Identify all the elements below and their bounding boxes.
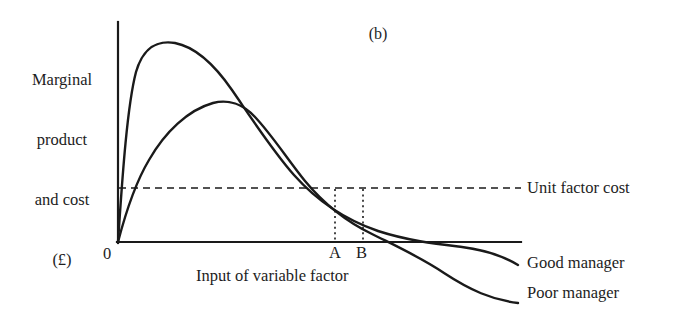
panel-label: (b) — [352, 26, 404, 42]
y-axis-label-line-2: product — [14, 130, 110, 150]
unit-factor-cost-label: Unit factor cost — [527, 180, 630, 197]
origin-label: 0 — [103, 246, 111, 263]
y-axis-label-line-3: and cost — [14, 190, 110, 210]
poor-manager-label: Poor manager — [527, 285, 619, 302]
good-manager-label: Good manager — [527, 255, 625, 272]
y-axis-label-line-1: Marginal — [14, 70, 110, 90]
point-b-label: B — [356, 245, 367, 262]
point-a-label: A — [329, 245, 341, 262]
figure-panel: Marginal product and cost (£) (b) 0 Inpu… — [0, 0, 677, 319]
y-axis-label-line-4: (£) — [14, 250, 110, 270]
x-axis-label: Input of variable factor — [196, 268, 349, 285]
y-axis-label: Marginal product and cost (£) — [14, 30, 110, 310]
good-manager-curve — [118, 42, 518, 265]
